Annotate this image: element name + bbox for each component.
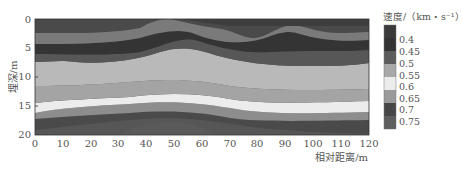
x-tick: 0 — [32, 138, 38, 149]
velocity-contour-chart: 0 5 10 15 20 埋深/m 0 10 20 30 40 50 60 70… — [0, 0, 462, 169]
x-axis-label: 相对距离/m — [315, 151, 368, 163]
colorbar-label: 0.5 — [399, 58, 414, 69]
x-tick: 60 — [196, 138, 209, 149]
y-tick-0: 0 — [25, 14, 31, 25]
contour-plot-area — [35, 19, 369, 135]
y-tick-10: 10 — [18, 71, 31, 82]
colorbar-title: 速度/（km・s⁻¹） — [383, 9, 462, 23]
x-tick: 50 — [168, 138, 181, 149]
colorbar — [384, 25, 396, 129]
x-tick: 10 — [57, 138, 70, 149]
y-axis-label: 埋深/m — [8, 60, 19, 93]
y-tick-20: 20 — [18, 129, 31, 140]
colorbar-label: 0.4 — [399, 34, 414, 45]
x-tick: 90 — [279, 138, 292, 149]
x-tick: 100 — [303, 138, 322, 149]
colorbar-label: 0.7 — [399, 104, 414, 115]
colorbar-label: 0.65 — [399, 93, 420, 104]
x-tick: 120 — [359, 138, 378, 149]
x-tick: 20 — [85, 138, 98, 149]
colorbar-label: 0.6 — [399, 81, 414, 92]
x-tick: 40 — [140, 138, 153, 149]
x-tick: 70 — [224, 138, 237, 149]
y-tick-5: 5 — [25, 42, 31, 53]
y-tick-15: 15 — [18, 100, 31, 111]
x-axis: 0 10 20 30 40 50 60 70 80 90 100 110 120… — [32, 138, 379, 163]
x-tick: 110 — [331, 138, 350, 149]
y-axis: 0 5 10 15 20 埋深/m — [8, 14, 38, 140]
colorbar-label: 0.55 — [399, 70, 420, 81]
colorbar-label: 0.75 — [399, 116, 420, 127]
colorbar-label: 0.45 — [399, 46, 420, 57]
x-tick: 30 — [112, 138, 125, 149]
x-tick: 80 — [251, 138, 264, 149]
